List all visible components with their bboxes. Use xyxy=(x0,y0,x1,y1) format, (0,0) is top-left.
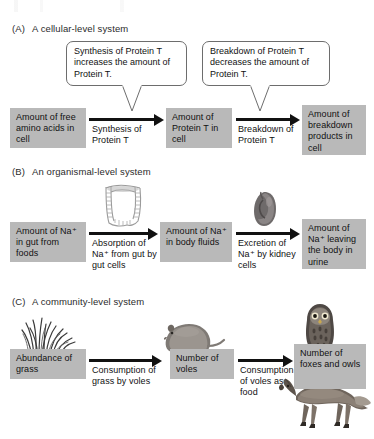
arrow-breakdown xyxy=(236,118,291,121)
box-abundance-of-grass: Abundance of grass xyxy=(10,349,86,379)
box-amount-na-gut: Amount of Na⁺ in gut from foods xyxy=(10,222,86,262)
box-amount-na-body-fluids: Amount of Na⁺ in body fluids xyxy=(160,222,232,262)
section-b-title: (B)An organismal-level system xyxy=(12,166,151,177)
arrow-absorption xyxy=(89,232,149,235)
section-c-label: (C) xyxy=(12,296,32,307)
arrow-label-absorption: Absorption of Na⁺ from gut by gut cells xyxy=(92,238,158,272)
box-number-of-voles: Number of voles xyxy=(170,349,234,379)
box-amount-breakdown-products: Amount of breakdown products in cell xyxy=(302,105,366,155)
figure-canvas: (A)A cellular-level system Synthesis of … xyxy=(0,0,374,439)
callout-breakdown: Breakdown of Protein T decreases the amo… xyxy=(202,41,330,86)
box-amount-free-amino-acids: Amount of free amino acids in cell xyxy=(10,108,86,148)
section-b-title-text: An organismal-level system xyxy=(32,166,151,177)
section-a-title-text: A cellular-level system xyxy=(32,23,128,34)
callout-synthesis-tail xyxy=(120,85,144,112)
box-amount-na-urine: Amount of Na⁺ leaving the body in urine xyxy=(302,219,366,269)
section-c-title: (C)A community-level system xyxy=(12,296,144,307)
arrow-label-consumption-grass: Consumption of grass by voles xyxy=(92,365,162,387)
section-a-title: (A)A cellular-level system xyxy=(12,23,128,34)
callout-breakdown-tail xyxy=(248,85,272,112)
box-amount-protein-t: Amount of Protein T in cell xyxy=(166,108,232,148)
arrow-consumption-voles xyxy=(238,359,284,362)
page-top-artifact xyxy=(0,0,374,12)
arrow-label-excretion: Excretion of Na⁺ by kidney cells xyxy=(238,238,300,272)
arrow-excretion xyxy=(236,232,291,235)
section-c-title-text: A community-level system xyxy=(32,296,144,307)
kidney-illustration xyxy=(250,190,278,228)
arrow-consumption-grass xyxy=(89,359,153,362)
arrow-label-breakdown: Breakdown of Protein T xyxy=(238,124,300,146)
arrow-synthesis xyxy=(89,118,155,121)
arrow-label-consumption-voles: Consumption of voles as food xyxy=(240,365,296,399)
section-b-label: (B) xyxy=(12,166,32,177)
callout-synthesis: Synthesis of Protein T increases the amo… xyxy=(66,41,187,86)
arrow-label-synthesis: Synthesis of Protein T xyxy=(92,124,158,146)
intestine-illustration xyxy=(97,183,149,228)
box-number-foxes-owls: Number of foxes and owls xyxy=(294,344,366,389)
section-a-label: (A) xyxy=(12,23,32,34)
